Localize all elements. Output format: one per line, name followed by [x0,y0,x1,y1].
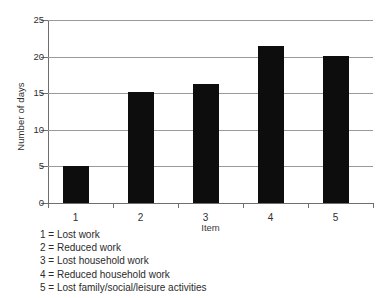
x-tick-mark [178,203,179,208]
bar [323,56,349,203]
x-tick-mark [48,203,49,208]
bar-chart-figure: Number of days 0510152025 12345 Item 1 =… [0,0,387,298]
y-axis-title: Number of days [15,52,26,182]
y-tick-label: 20 [33,51,44,62]
x-tick-mark [243,203,244,208]
x-tick-mark [308,203,309,208]
key-line: 5 = Lost family/social/leisure activitie… [40,281,340,294]
y-tick-label: 25 [33,14,44,25]
x-tick-mark [113,203,114,208]
y-tick-label: 10 [33,124,44,135]
key-line: 1 = Lost work [40,228,340,241]
x-tick-mark [373,203,374,208]
gridline [48,20,373,21]
bar [128,92,154,203]
bar [258,46,284,203]
y-tick-label: 0 [39,197,44,208]
y-axis-line [48,20,49,203]
bar [63,166,89,203]
y-tick-label: 5 [39,160,44,171]
x-axis-line [48,203,373,204]
bar [193,84,219,203]
key-line: 4 = Reduced household work [40,268,340,281]
chart-key: 1 = Lost work2 = Reduced work3 = Lost ho… [40,228,340,294]
y-tick-label: 15 [33,87,44,98]
plot-area: 0510152025 12345 [48,20,373,203]
key-line: 2 = Reduced work [40,241,340,254]
key-line: 3 = Lost household work [40,254,340,267]
